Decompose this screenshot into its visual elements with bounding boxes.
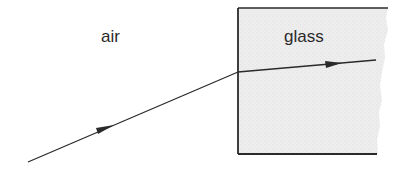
diagram-svg (0, 0, 405, 173)
refraction-diagram: air glass (0, 0, 405, 173)
air-label: air (101, 28, 120, 45)
incident-ray (28, 72, 238, 162)
glass-label: glass (284, 28, 324, 45)
incident-arrow-icon (96, 125, 114, 134)
